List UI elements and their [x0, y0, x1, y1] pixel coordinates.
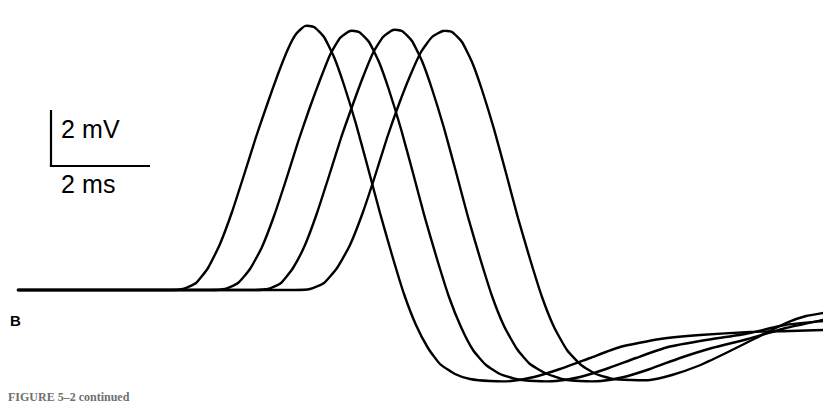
panel-label: B [10, 313, 21, 328]
voltage-traces-group [18, 26, 823, 381]
trace-plot-area [0, 0, 823, 401]
scale-bar-vertical-label: 2 mV [61, 117, 120, 142]
scale-bar-horizontal-label: 2 ms [61, 172, 116, 197]
figure-panel-b: 2 mV 2 ms B FIGURE 5–2 continued [0, 0, 823, 401]
voltage-trace [18, 31, 823, 381]
figure-caption: FIGURE 5–2 continued [8, 391, 808, 401]
